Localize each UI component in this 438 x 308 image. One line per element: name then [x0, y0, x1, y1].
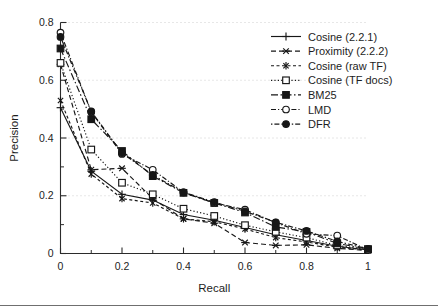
y-tick-label: 0.8 [39, 16, 54, 28]
marker-filled-circle [242, 208, 249, 215]
legend-item-cosine-raw-tf[interactable]: Cosine (raw TF) [271, 60, 387, 72]
data-point-filled-circle [365, 246, 372, 253]
legend-label: DFR [308, 118, 331, 130]
data-point-asterisk [58, 97, 63, 104]
data-point-filled-square [57, 45, 64, 52]
data-point-open-square [211, 213, 218, 220]
data-point-open-square [242, 222, 249, 229]
y-tick-label: 0.2 [39, 189, 54, 201]
x-tick-label: 0.8 [299, 260, 314, 272]
data-point-filled-square [88, 116, 95, 123]
marker-filled-square [283, 92, 290, 99]
y-tick-label: 0 [48, 247, 54, 259]
marker-filled-circle [180, 189, 187, 196]
chart-canvas: 00.20.40.60.800.20.40.60.81RecallPrecisi… [0, 0, 438, 308]
legend-label: Cosine (raw TF) [308, 60, 387, 72]
data-point-x-star [272, 243, 280, 249]
legend-item-cosine-2-2-1[interactable]: Cosine (2.2.1) [271, 31, 377, 43]
marker-open-square [119, 179, 126, 186]
data-point-filled-circle [180, 189, 187, 196]
legend-item-dfr[interactable]: DFR [271, 118, 331, 130]
y-tick-label: 0.6 [39, 74, 54, 86]
data-point-open-square [88, 146, 95, 153]
x-tick-label: 0.4 [176, 260, 191, 272]
data-point-open-square [283, 77, 290, 84]
marker-filled-circle [334, 238, 341, 245]
data-point-x-star [241, 240, 249, 246]
marker-filled-square [88, 116, 95, 123]
x-tick-label: 1 [365, 260, 371, 272]
legend-item-lmd[interactable]: LMD [271, 104, 331, 116]
marker-filled-circle [88, 108, 95, 115]
data-point-filled-circle [334, 238, 341, 245]
marker-filled-circle [57, 34, 64, 41]
marker-open-circle [283, 106, 290, 113]
x-tick-label: 0 [58, 260, 64, 272]
data-point-open-square [119, 179, 126, 186]
data-point-asterisk [119, 195, 124, 202]
marker-open-square [57, 60, 64, 67]
data-point-filled-circle [211, 199, 218, 206]
legend-label: Cosine (TF docs) [308, 74, 392, 86]
legend-label: BM25 [308, 89, 337, 101]
x-tick-label: 0.6 [238, 260, 253, 272]
x-axis-title: Recall [198, 282, 230, 294]
data-point-open-square [149, 191, 156, 198]
marker-filled-circle [283, 121, 290, 128]
marker-filled-circle [119, 150, 126, 157]
marker-open-square [180, 205, 187, 212]
data-point-open-circle [283, 106, 290, 113]
figure-bottom-rule [0, 305, 438, 306]
marker-filled-circle [149, 172, 156, 179]
precision-recall-figure: 00.20.40.60.800.20.40.60.81RecallPrecisi… [0, 0, 438, 308]
legend-item-cosine-tf-docs[interactable]: Cosine (TF docs) [271, 74, 392, 86]
y-tick-label: 0.4 [39, 132, 54, 144]
legend-label: LMD [308, 104, 331, 116]
data-point-plus [282, 33, 290, 41]
legend-item-bm25[interactable]: BM25 [271, 89, 337, 101]
marker-open-square [242, 222, 249, 229]
data-point-filled-square [283, 92, 290, 99]
data-point-asterisk [89, 170, 94, 177]
marker-filled-circle [303, 228, 310, 235]
legend-item-proximity-2-2-2[interactable]: Proximity (2.2.2) [271, 45, 388, 57]
data-point-filled-circle [57, 34, 64, 41]
legend-label: Proximity (2.2.2) [308, 45, 388, 57]
marker-open-square [149, 191, 156, 198]
data-point-filled-circle [242, 208, 249, 215]
data-point-filled-circle [272, 219, 279, 226]
data-point-filled-circle [303, 228, 310, 235]
marker-filled-circle [272, 219, 279, 226]
data-point-x-star [282, 48, 290, 54]
data-point-open-square [180, 205, 187, 212]
marker-filled-square [57, 45, 64, 52]
legend: Cosine (2.2.1)Proximity (2.2.2)Cosine (r… [271, 31, 392, 131]
marker-filled-circle [365, 246, 372, 253]
y-axis-title: Precision [8, 114, 20, 161]
data-point-asterisk [150, 199, 155, 206]
data-point-x-star [118, 166, 126, 172]
x-tick-label: 0.2 [115, 260, 130, 272]
marker-open-square [88, 146, 95, 153]
data-point-filled-circle [283, 121, 290, 128]
marker-filled-circle [211, 199, 218, 206]
data-point-filled-circle [119, 150, 126, 157]
data-point-filled-circle [88, 108, 95, 115]
marker-open-square [211, 213, 218, 220]
data-point-open-square [57, 60, 64, 67]
data-point-filled-circle [149, 172, 156, 179]
legend-label: Cosine (2.2.1) [308, 31, 377, 43]
marker-open-square [283, 77, 290, 84]
